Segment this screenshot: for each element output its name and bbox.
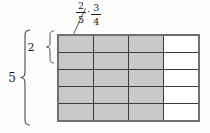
grid-cell <box>59 36 93 52</box>
fraction-grid <box>57 34 200 122</box>
grid-cell <box>59 104 93 120</box>
product-expression: 25·34 <box>76 1 101 24</box>
fraction-numerator: 3 <box>91 3 101 14</box>
grid-cell <box>94 53 128 69</box>
grid-cell <box>59 53 93 69</box>
grid-cell <box>164 70 198 86</box>
grid-cell <box>164 53 198 69</box>
grid-cell <box>129 53 163 69</box>
grid-cell <box>129 70 163 86</box>
grid-cell <box>129 104 163 120</box>
fraction-multiplication-figure: 25·34 5 2 <box>0 0 210 133</box>
grid-cell <box>164 87 198 103</box>
highlighted-rows-label: 2 <box>26 41 36 54</box>
highlighted-rows-brace <box>47 31 54 63</box>
fraction-denominator: 5 <box>76 12 86 24</box>
total-rows-label: 5 <box>7 71 17 85</box>
fraction-two-fifths: 25 <box>76 1 86 24</box>
grid-cell <box>129 36 163 52</box>
grid-cell <box>164 36 198 52</box>
grid-cell <box>59 87 93 103</box>
grid-cell <box>94 70 128 86</box>
fraction-three-fourths: 34 <box>91 3 101 26</box>
fraction-denominator: 4 <box>91 14 101 26</box>
fraction-numerator: 2 <box>76 1 86 12</box>
grid-cell <box>94 87 128 103</box>
grid-cell <box>94 104 128 120</box>
grid-cell <box>129 87 163 103</box>
multiplication-dot: · <box>87 6 90 17</box>
grid-cell <box>94 36 128 52</box>
grid-cell <box>164 104 198 120</box>
grid-cell <box>59 70 93 86</box>
